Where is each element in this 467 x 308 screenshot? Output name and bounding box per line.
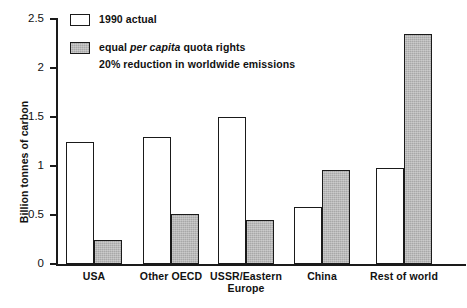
bar (322, 170, 350, 264)
legend-label-1990-actual: 1990 actual (99, 13, 157, 25)
y-tick-mark (50, 67, 58, 69)
legend-swatch-white (70, 14, 90, 26)
bar (66, 142, 94, 265)
y-tick-label: 0 (0, 258, 44, 269)
y-tick-label: 2.5 (0, 13, 44, 24)
bar (218, 117, 246, 264)
legend-swatch-gray (70, 42, 90, 54)
y-tick-label: 1 (0, 160, 44, 171)
y-tick-label: 2 (0, 62, 44, 73)
bar (143, 137, 171, 264)
bar-chart: Billion tonnes of carbon 00.511.522.5 US… (0, 0, 467, 308)
legend-entry-1990-actual: 1990 actual (70, 13, 360, 33)
chart-legend: 1990 actual equal per capita quota right… (70, 13, 360, 79)
y-tick-label: 1.5 (0, 111, 44, 122)
y-tick-mark (50, 116, 58, 118)
bar (171, 214, 199, 264)
x-axis-line (56, 264, 466, 266)
y-tick-mark (50, 165, 58, 167)
y-tick-mark (50, 18, 58, 20)
legend-entry-quota-rights: equal per capita quota rights 20% reduct… (70, 41, 360, 79)
legend-label-italic: per capita (130, 41, 181, 53)
bar (94, 240, 122, 264)
legend-label-quota-rights: equal per capita quota rights (99, 41, 245, 53)
legend-label-post: quota rights (181, 41, 246, 53)
legend-sublabel-reduction: 20% reduction in worldwide emissions (99, 58, 295, 70)
bar (294, 207, 322, 264)
y-tick-mark (50, 263, 58, 265)
bar (246, 220, 274, 264)
legend-label-pre: equal (99, 41, 130, 53)
y-tick-label: 0.5 (0, 209, 44, 220)
x-axis-label: Rest of world (354, 270, 454, 282)
y-tick-mark (50, 214, 58, 216)
bar (404, 34, 432, 264)
bar (376, 168, 404, 264)
